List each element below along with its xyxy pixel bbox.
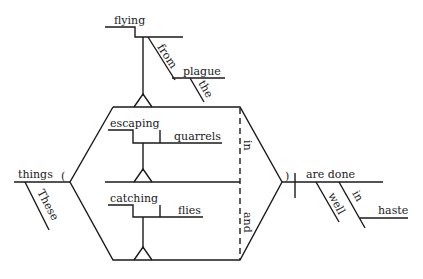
word-these: These [34, 187, 61, 222]
word-flies: flies [178, 204, 201, 217]
word-escaping: escaping [110, 117, 160, 130]
participle-escaping: escaping quarrels [108, 117, 222, 182]
word-plague: plague [183, 65, 221, 78]
word-catching: catching [110, 192, 158, 205]
word-and-dashed: and [241, 212, 254, 233]
participle-catching: catching flies [108, 192, 203, 260]
word-things: things [18, 168, 53, 181]
subject-branch: things These ( [14, 168, 70, 230]
word-quarrels: quarrels [174, 130, 221, 143]
top-participle-phrase: flying from plague the [105, 14, 225, 107]
word-are-done: are done [306, 168, 355, 181]
diagram-canvas: flying from plague the in and escaping q… [0, 0, 423, 279]
word-flying: flying [114, 14, 145, 27]
paren-left: ( [61, 170, 65, 183]
word-in-dashed: in [241, 140, 254, 151]
predicate-branch: ) are done well in haste [282, 168, 408, 228]
paren-right: ) [285, 170, 289, 183]
word-in-right: in [349, 188, 365, 203]
sentence-diagram: flying from plague the in and escaping q… [0, 0, 423, 279]
word-the: the [195, 78, 215, 100]
word-haste: haste [378, 204, 408, 217]
word-from: from [154, 42, 180, 72]
